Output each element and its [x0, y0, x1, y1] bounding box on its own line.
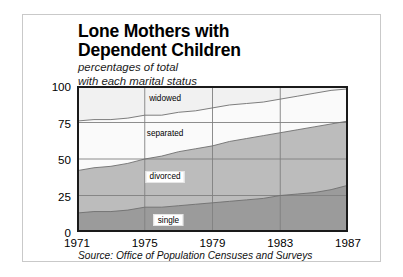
x-axis-tick-label: 1979: [200, 236, 226, 249]
y-axis-tick-label: 25: [37, 189, 71, 202]
x-axis-tick-label: 1987: [335, 236, 361, 249]
subtitle-line-1: percentages of total: [78, 61, 338, 74]
y-axis-tick-label: 50: [37, 153, 71, 166]
figure: Lone Mothers with Dependent Children per…: [0, 0, 403, 277]
series-label-widowed: widowed: [149, 93, 181, 102]
page-title-line-2: Dependent Children: [78, 41, 338, 60]
x-axis-tick-label: 1983: [267, 236, 293, 249]
x-axis-tick-label: 1975: [132, 236, 158, 249]
series-label-divorced: divorced: [146, 171, 185, 183]
y-axis: 0255075100: [33, 86, 71, 232]
series-label-separated: separated: [147, 129, 183, 138]
y-axis-tick-label: 75: [37, 116, 71, 129]
y-axis-tick-label: 100: [37, 80, 71, 93]
title-block: Lone Mothers with Dependent Children per…: [78, 22, 338, 88]
stacked-area-chart: [77, 86, 348, 232]
x-axis-tick-label: 1971: [64, 236, 90, 249]
source-note: Source: Office of Population Censuses an…: [78, 250, 312, 261]
series-label-single: single: [154, 214, 183, 226]
page-title-line-1: Lone Mothers with: [78, 22, 338, 41]
subtitle-block: percentages of total with each marital s…: [78, 61, 338, 87]
plot-area: widowedseparateddivorcedsingle: [77, 86, 348, 232]
